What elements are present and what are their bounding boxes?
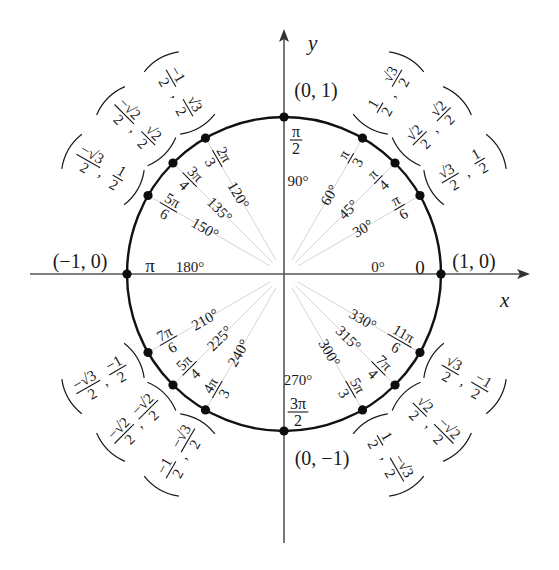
numerator: 3π — [290, 395, 306, 412]
degree-label-180: 180° — [176, 259, 205, 275]
point-300 — [358, 405, 367, 414]
numerator: π — [292, 123, 300, 140]
point-0 — [436, 269, 445, 278]
coordinate-label-180: (−1, 0) — [53, 250, 108, 273]
point-210 — [143, 348, 152, 357]
background — [0, 0, 559, 570]
point-120 — [201, 133, 210, 142]
coordinate-label-270: (0, −1) — [295, 447, 350, 470]
point-270 — [279, 426, 288, 435]
radian-label-180: π — [145, 255, 155, 276]
y-axis-label: y — [306, 31, 318, 55]
point-225 — [168, 380, 177, 389]
radian-label-0: 0 — [415, 257, 425, 278]
coordinate-label-90: (0, 1) — [294, 79, 337, 102]
point-150 — [143, 191, 152, 200]
point-330 — [415, 348, 424, 357]
unit-circle-diagram: Unit Circle x y 30°π645°π460°π3120°2π313… — [0, 0, 559, 570]
coordinate-label-0: (1, 0) — [452, 250, 495, 273]
point-60 — [358, 133, 367, 142]
point-30 — [415, 191, 424, 200]
point-45 — [390, 158, 399, 167]
point-135 — [168, 158, 177, 167]
point-315 — [390, 380, 399, 389]
x-axis-label: x — [499, 288, 510, 312]
point-180 — [122, 269, 131, 278]
point-90 — [279, 112, 288, 121]
degree-label-90: 90° — [288, 173, 309, 189]
degree-label-0: 0° — [371, 259, 385, 275]
denominator: 2 — [292, 140, 300, 157]
degree-label-270: 270° — [284, 372, 313, 388]
point-240 — [201, 405, 210, 414]
denominator: 2 — [294, 412, 302, 429]
